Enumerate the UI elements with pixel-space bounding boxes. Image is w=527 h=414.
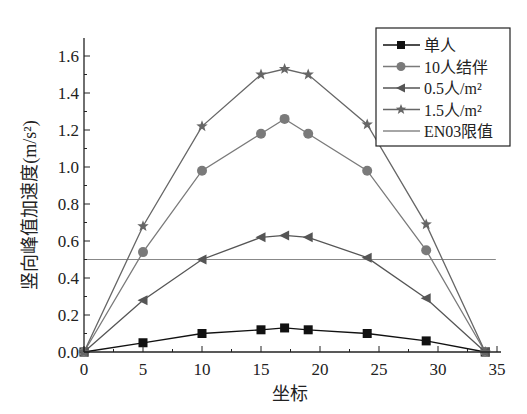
circle-marker-icon — [256, 129, 266, 139]
legend: 单人10人结伴0.5人/m²1.5人/m²EN03限值 — [376, 28, 510, 146]
y-axis-title-main: 竖向峰值加速度 — [19, 164, 40, 290]
x-tick-label: 10 — [194, 360, 211, 379]
y-tick-label: 1.2 — [58, 121, 79, 140]
x-axis-title: 坐标 — [272, 383, 308, 404]
square-marker-icon — [397, 41, 405, 49]
y-tick-label: 0.2 — [58, 306, 79, 325]
square-marker-icon — [304, 325, 313, 334]
circle-marker-icon — [280, 114, 290, 124]
legend-label: EN03限值 — [424, 123, 493, 140]
y-tick-label: 0.6 — [58, 232, 79, 251]
x-tick-label: 35 — [489, 360, 506, 379]
circle-marker-icon — [397, 62, 406, 71]
y-tick-label: 1.4 — [58, 84, 80, 103]
y-tick-label: 0.0 — [58, 343, 79, 362]
y-tick-label: 0.8 — [58, 195, 79, 214]
x-tick-label: 25 — [371, 360, 388, 379]
star-marker-icon — [421, 218, 432, 229]
line-chart: 0.00.20.40.60.81.01.21.41.60510152025303… — [0, 0, 527, 414]
triangle-left-marker-icon — [279, 230, 289, 240]
y-tick-label: 1.0 — [58, 158, 79, 177]
square-marker-icon — [280, 323, 289, 332]
x-tick-label: 0 — [80, 360, 89, 379]
y-tick-label: 1.6 — [58, 47, 79, 66]
square-marker-icon — [198, 329, 207, 338]
x-tick-label: 15 — [253, 360, 270, 379]
legend-label: 1.5人/m² — [424, 102, 482, 119]
star-marker-icon — [137, 220, 148, 231]
y-tick-label: 0.4 — [58, 269, 80, 288]
x-tick-label: 5 — [139, 360, 148, 379]
x-tick-label: 20 — [312, 360, 329, 379]
y-axis-title: 竖向峰值加速度(m/s²) — [19, 120, 41, 289]
legend-label: 单人 — [424, 37, 456, 54]
square-marker-icon — [422, 336, 431, 345]
circle-marker-icon — [362, 166, 372, 176]
x-tick-label: 30 — [430, 360, 447, 379]
y-axis-title-unit: (m/s²) — [20, 120, 41, 163]
legend-label: 0.5人/m² — [424, 80, 482, 97]
triangle-left-marker-icon — [362, 253, 372, 263]
star-marker-icon — [362, 119, 373, 130]
triangle-left-marker-icon — [256, 232, 266, 242]
circle-marker-icon — [138, 247, 148, 257]
circle-marker-icon — [197, 166, 207, 176]
circle-marker-icon — [421, 245, 431, 255]
circle-marker-icon — [303, 129, 313, 139]
star-marker-icon — [279, 63, 290, 74]
square-marker-icon — [363, 329, 372, 338]
square-marker-icon — [257, 325, 266, 334]
triangle-left-marker-icon — [303, 232, 313, 242]
legend-label: 10人结伴 — [424, 59, 488, 76]
square-marker-icon — [139, 338, 148, 347]
